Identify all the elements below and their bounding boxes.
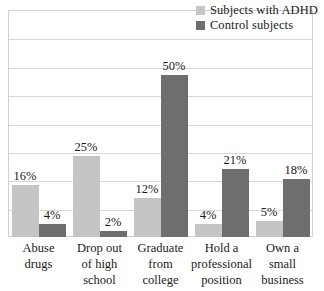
bar-group: 12%50% <box>130 10 191 237</box>
category-label-line: of high <box>69 256 130 272</box>
bar-value-label: 2% <box>105 216 122 229</box>
category-label: Graduatefromcollege <box>130 240 191 288</box>
bar-slot: 21% <box>222 10 249 237</box>
bar-group: 16%4% <box>8 10 69 237</box>
bar <box>73 156 100 237</box>
category-label-line: college <box>130 272 191 288</box>
category-label-line: Own a <box>252 240 313 256</box>
category-label-line: professional <box>191 256 252 272</box>
bar-slot: 2% <box>100 10 127 237</box>
bar <box>256 221 283 237</box>
bar-slot: 50% <box>161 10 188 237</box>
bar <box>100 231 127 237</box>
category-label: Drop outof highschool <box>69 240 130 288</box>
bar-value-label: 12% <box>136 183 159 196</box>
bar-slot: 4% <box>195 10 222 237</box>
category-label-line: Drop out <box>69 240 130 256</box>
bar-value-label: 18% <box>285 164 308 177</box>
bar-value-label: 25% <box>75 141 98 154</box>
bar-slot: 4% <box>39 10 66 237</box>
bar-pair: 16%4% <box>8 10 69 237</box>
bar-pair: 5%18% <box>252 10 313 237</box>
category-label-line: position <box>191 272 252 288</box>
category-label-line: school <box>69 272 130 288</box>
bar <box>12 185 39 237</box>
bar-value-label: 5% <box>261 206 278 219</box>
bar <box>39 224 66 237</box>
bar-value-label: 21% <box>224 154 247 167</box>
category-label-line: Hold a <box>191 240 252 256</box>
category-label-line: Graduate <box>130 240 191 256</box>
category-label: Own asmallbusiness <box>252 240 313 288</box>
grouped-bar-chart: Subjects with ADHD Control subjects 16%4… <box>0 0 324 291</box>
bar-value-label: 4% <box>44 209 61 222</box>
bar <box>195 224 222 237</box>
bar-value-label: 50% <box>163 60 186 73</box>
category-label-line: small <box>252 256 313 272</box>
category-label: Abusedrugs <box>8 240 69 272</box>
bar-group: 4%21% <box>191 10 252 237</box>
bar-slot: 12% <box>134 10 161 237</box>
category-label-line: Abuse <box>8 240 69 256</box>
category-labels: AbusedrugsDrop outof highschoolGraduatef… <box>8 240 313 291</box>
bar-slot: 25% <box>73 10 100 237</box>
bar-group: 25%2% <box>69 10 130 237</box>
bar-slot: 16% <box>12 10 39 237</box>
category-label-line: from <box>130 256 191 272</box>
category-label: Hold aprofessionalposition <box>191 240 252 288</box>
bar-slot: 5% <box>256 10 283 237</box>
bar <box>161 75 188 237</box>
bar-pair: 25%2% <box>69 10 130 237</box>
bar-slot: 18% <box>283 10 310 237</box>
bar-value-label: 4% <box>200 209 217 222</box>
bar <box>134 198 161 237</box>
category-label-line: drugs <box>8 256 69 272</box>
bar-pair: 4%21% <box>191 10 252 237</box>
bar-group: 5%18% <box>252 10 313 237</box>
bars-layer: 16%4%25%2%12%50%4%21%5%18% <box>8 10 313 237</box>
bar <box>283 179 310 237</box>
bar <box>222 169 249 237</box>
category-label-line: business <box>252 272 313 288</box>
bar-pair: 12%50% <box>130 10 191 237</box>
bar-value-label: 16% <box>14 170 37 183</box>
